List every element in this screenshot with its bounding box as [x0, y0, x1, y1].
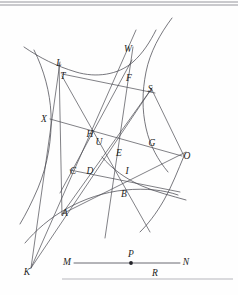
label-P: P — [127, 249, 134, 259]
label-O: O — [184, 151, 191, 161]
label-G: G — [149, 138, 156, 148]
label-S: S — [148, 84, 153, 94]
label-H: H — [86, 129, 95, 139]
label-F: F — [125, 73, 132, 83]
label-K: K — [23, 267, 31, 277]
chord-S-to-O-leg — [152, 90, 184, 156]
curve-branch-right-lower — [140, 156, 184, 232]
label-M: M — [62, 257, 72, 267]
conic-curves — [20, 18, 186, 243]
label-N: N — [182, 257, 190, 267]
label-W: W — [124, 44, 133, 54]
chord-T-to-I — [62, 76, 150, 232]
curve-hyperbola-left-branch — [20, 50, 51, 224]
label-I: I — [124, 166, 129, 176]
chord-T-to-S — [62, 74, 155, 93]
chord-A-to-G — [62, 152, 186, 214]
geometry-svg: LTWFSXHUGOECDIBAKMPNR — [0, 0, 238, 295]
curve-hyperbola-upper-left — [24, 30, 156, 75]
label-U: U — [96, 137, 104, 147]
chord-lines — [31, 30, 186, 268]
label-D: D — [86, 166, 94, 176]
label-X: X — [40, 114, 48, 124]
label-C: C — [70, 166, 77, 176]
label-B: B — [121, 189, 127, 199]
marked-points — [129, 261, 133, 265]
label-R: R — [151, 268, 158, 278]
top-rule-lines — [0, 2, 238, 5]
label-L: L — [55, 58, 61, 68]
figure-canvas: LTWFSXHUGOECDIBAKMPNR — [0, 0, 238, 295]
label-A: A — [61, 208, 68, 218]
point-dot-P — [129, 261, 133, 265]
curve-hyperbola-lower-left — [25, 189, 178, 243]
label-E: E — [115, 148, 122, 158]
chord-K-to-L — [31, 62, 60, 268]
label-T: T — [60, 71, 66, 81]
